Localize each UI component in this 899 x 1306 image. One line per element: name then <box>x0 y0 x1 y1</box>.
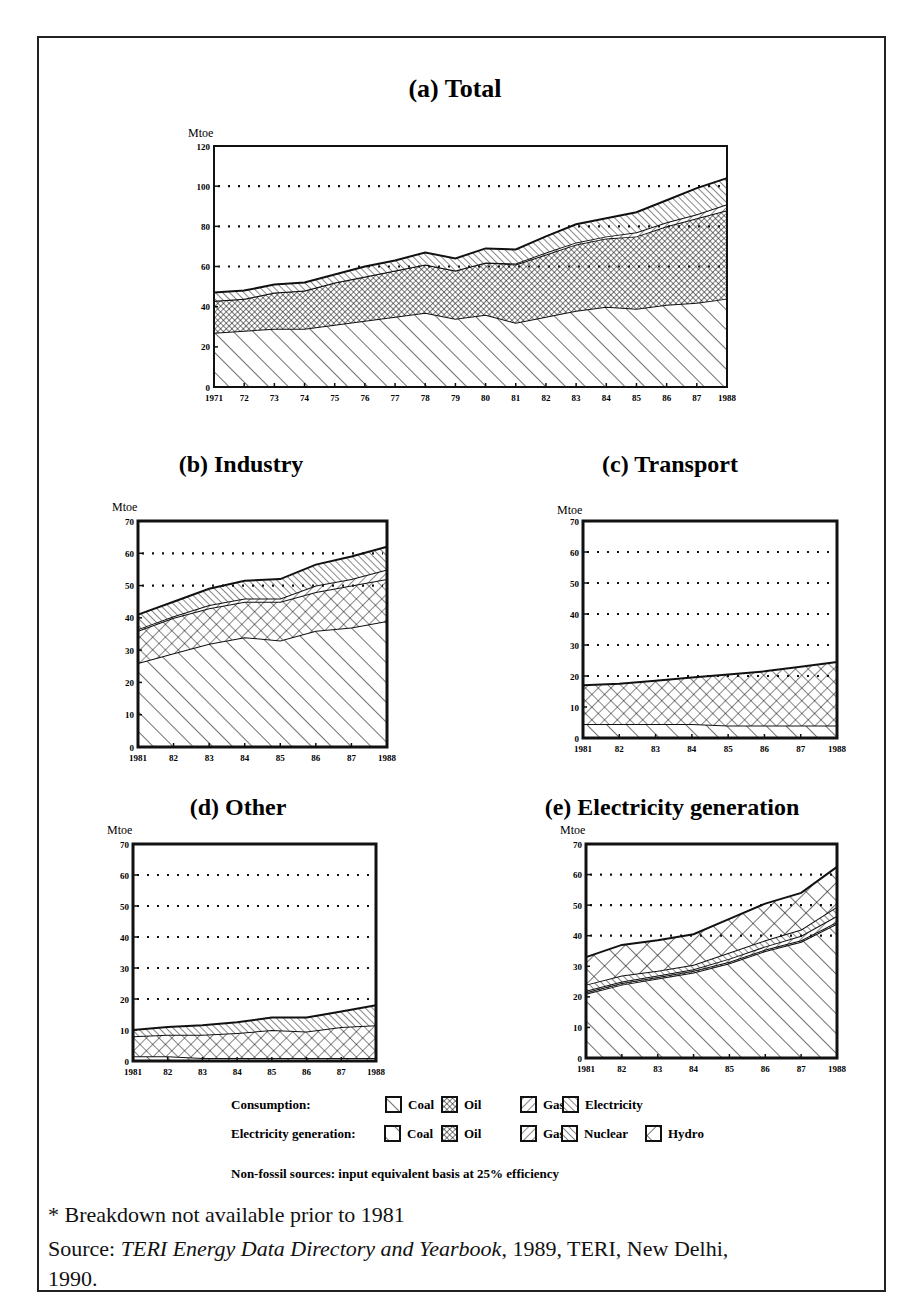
y-tick-label: 30 <box>573 962 583 972</box>
y-tick-label: 60 <box>201 262 211 272</box>
x-tick-label: 1988 <box>828 1064 847 1074</box>
y-tick-label: 60 <box>573 870 583 880</box>
x-tick-label: 83 <box>572 393 582 403</box>
legend-row-label: Electricity generation: <box>231 1126 356 1141</box>
x-tick-label: 82 <box>163 1067 173 1077</box>
x-tick-label: 82 <box>541 393 551 403</box>
x-tick-label: 83 <box>205 753 215 763</box>
y-tick-label: 20 <box>573 992 583 1002</box>
x-tick-label: 87 <box>337 1067 347 1077</box>
y-tick-label: 60 <box>125 549 135 559</box>
legend-swatch-coal <box>385 1126 400 1141</box>
y-tick-label: 80 <box>201 222 211 232</box>
x-tick-label: 1971 <box>205 393 224 403</box>
y-tick-label: 30 <box>125 646 135 656</box>
chart-panel-d: (d) OtherMtoe010203040506070198182838485… <box>107 794 386 1077</box>
x-tick-label: 86 <box>761 1064 771 1074</box>
x-tick-label: 1988 <box>367 1067 386 1077</box>
x-tick-label: 83 <box>651 744 661 754</box>
y-tick-label: 30 <box>570 641 580 651</box>
y-tick-label: 10 <box>125 710 135 720</box>
x-tick-label: 85 <box>632 393 642 403</box>
legend-row-label: Consumption: <box>231 1097 310 1112</box>
y-tick-label: 70 <box>120 840 130 850</box>
chart-panel-e: (e) Electricity generationMtoe0102030405… <box>545 794 847 1074</box>
source-citation: Source: TERI Energy Data Directory and Y… <box>48 1234 878 1294</box>
y-tick-label: 0 <box>575 734 580 744</box>
legend-swatch-electricity <box>563 1097 578 1112</box>
legend-swatch-gas <box>521 1126 536 1141</box>
y-axis-label: Mtoe <box>107 823 132 837</box>
y-tick-label: 50 <box>573 901 583 911</box>
y-tick-label: 50 <box>570 579 580 589</box>
x-tick-label: 87 <box>692 393 702 403</box>
x-tick-label: 78 <box>421 393 431 403</box>
x-tick-label: 85 <box>267 1067 277 1077</box>
chart-title: (d) Other <box>190 794 287 820</box>
y-tick-label: 60 <box>120 871 130 881</box>
x-tick-label: 85 <box>724 744 734 754</box>
legend-swatch-coal <box>386 1097 401 1112</box>
chart-panel-c: (c) TransportMtoe01020304050607019818283… <box>557 451 847 754</box>
x-tick-label: 1981 <box>129 753 148 763</box>
footnote-text: * Breakdown not available prior to 1981 <box>48 1202 405 1227</box>
y-tick-label: 70 <box>573 840 583 850</box>
y-tick-label: 100 <box>197 182 211 192</box>
x-tick-label: 85 <box>276 753 286 763</box>
legend-item-coal: Coal <box>408 1097 434 1112</box>
y-axis-label: Mtoe <box>557 503 582 517</box>
x-tick-label: 75 <box>330 393 340 403</box>
chart-panel-b: (b) IndustryMtoe010203040506070198182838… <box>112 451 397 763</box>
y-tick-label: 40 <box>120 933 130 943</box>
legend-swatch-oil <box>442 1097 457 1112</box>
y-tick-label: 0 <box>130 743 135 753</box>
x-tick-label: 77 <box>391 393 401 403</box>
y-tick-label: 20 <box>201 342 211 352</box>
chart-title: (c) Transport <box>602 451 738 477</box>
figure-canvas: (a) TotalMtoe020406080100120197172737475… <box>0 0 899 1306</box>
legend-swatch-oil <box>442 1126 457 1141</box>
chart-legend: Consumption:CoalOilGasElectricityElectri… <box>231 1097 704 1181</box>
x-tick-label: 1988 <box>828 744 847 754</box>
chart-panel-a: (a) TotalMtoe020406080100120197172737475… <box>188 74 737 403</box>
legend-item-oil: Oil <box>464 1126 482 1141</box>
x-tick-label: 84 <box>240 753 250 763</box>
y-tick-label: 40 <box>570 610 580 620</box>
area-oil <box>583 662 837 726</box>
x-tick-label: 86 <box>662 393 672 403</box>
source-prefix: Source: <box>48 1236 121 1261</box>
x-tick-label: 79 <box>451 393 461 403</box>
x-tick-label: 82 <box>169 753 179 763</box>
y-tick-label: 10 <box>573 1023 583 1033</box>
legend-item-oil: Oil <box>464 1097 482 1112</box>
source-suffix: , 1989, TERI, New Delhi, <box>501 1236 728 1261</box>
x-tick-label: 86 <box>311 753 321 763</box>
legend-item-nuclear: Nuclear <box>584 1126 628 1141</box>
x-tick-label: 84 <box>602 393 612 403</box>
x-tick-label: 84 <box>233 1067 243 1077</box>
x-tick-label: 82 <box>615 744 625 754</box>
source-title: TERI Energy Data Directory and Yearbook <box>121 1236 502 1261</box>
x-tick-label: 87 <box>797 1064 807 1074</box>
legend-item-gas: Gas <box>543 1097 565 1112</box>
legend-item-hydro: Hydro <box>668 1126 704 1141</box>
x-tick-label: 85 <box>725 1064 735 1074</box>
y-tick-label: 50 <box>125 581 135 591</box>
legend-item-electricity: Electricity <box>585 1097 643 1112</box>
y-tick-label: 20 <box>120 995 130 1005</box>
x-tick-label: 86 <box>302 1067 312 1077</box>
x-tick-label: 1981 <box>577 1064 596 1074</box>
x-tick-label: 80 <box>481 393 491 403</box>
legend-swatch-nuclear <box>562 1126 577 1141</box>
x-tick-label: 1981 <box>574 744 593 754</box>
x-tick-label: 83 <box>198 1067 208 1077</box>
x-tick-label: 82 <box>617 1064 627 1074</box>
source-year: 1990. <box>48 1266 98 1291</box>
y-tick-label: 120 <box>197 142 211 152</box>
chart-title: (b) Industry <box>179 451 304 477</box>
chart-title: (e) Electricity generation <box>545 794 800 820</box>
y-tick-label: 30 <box>120 964 130 974</box>
legend-note: Non-fossil sources: input equivalent bas… <box>231 1166 560 1181</box>
x-tick-label: 81 <box>511 393 521 403</box>
y-tick-label: 0 <box>578 1054 583 1064</box>
